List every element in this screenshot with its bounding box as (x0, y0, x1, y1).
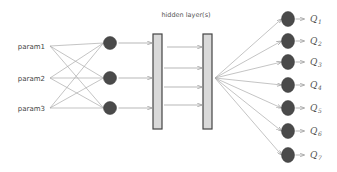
output-label-q2: Q2 (310, 36, 322, 47)
output-label-q7: Q7 (310, 150, 322, 161)
output-edge (215, 19, 282, 78)
output-label-q5: Q5 (310, 103, 322, 114)
output-edge (215, 78, 282, 108)
input-node-2 (104, 72, 117, 85)
output-label-q6: Q6 (310, 126, 322, 137)
input-label-3: param3 (18, 105, 45, 113)
output-label-q3: Q3 (310, 57, 322, 68)
output-edge (215, 78, 282, 155)
hidden-layers-title: hidden layer(s) (161, 11, 210, 19)
input-edge (50, 43, 104, 46)
output-edge (215, 41, 282, 78)
input-node-1 (104, 37, 117, 50)
output-node-1 (282, 12, 295, 27)
input-label-1: param1 (18, 43, 45, 51)
output-edge (215, 78, 282, 85)
output-label-q4: Q4 (310, 80, 322, 91)
output-label-q1: Q1 (310, 14, 322, 25)
edges (50, 19, 305, 155)
hidden-layer-2 (203, 34, 212, 129)
output-node-5 (282, 101, 295, 116)
labels: param1param2param3Q1Q2Q3Q4Q5Q6Q7 (18, 14, 322, 161)
input-edge (50, 43, 104, 78)
input-node-3 (104, 102, 117, 115)
output-node-2 (282, 34, 295, 49)
hidden-layer-1 (153, 34, 162, 129)
input-label-2: param2 (18, 75, 45, 83)
output-edge (215, 78, 282, 131)
output-node-3 (282, 55, 295, 70)
output-node-6 (282, 124, 295, 139)
output-edge (215, 62, 282, 78)
output-node-7 (282, 148, 295, 163)
output-node-4 (282, 78, 295, 93)
neural-network-diagram: hidden layer(s) param1param2param3Q1Q2Q3… (0, 0, 337, 172)
input-edge (50, 46, 104, 78)
